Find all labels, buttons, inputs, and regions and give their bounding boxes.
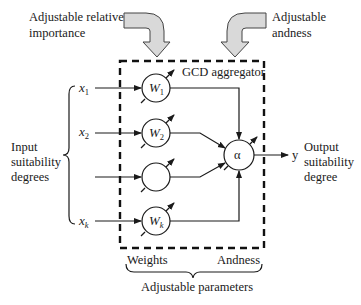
connection-w2: [170, 133, 225, 148]
parameters-label: Adjustable parameters: [141, 280, 253, 294]
input-label-line1: Input: [11, 140, 38, 154]
relative-importance-label-line1: Adjustable relative: [29, 10, 124, 24]
connection-w1: [170, 88, 239, 139]
andness-label-line1: Adjustable: [272, 10, 327, 24]
relative-importance-arrow-icon: [124, 13, 170, 57]
output-var: y: [292, 148, 299, 162]
connection-wk: [170, 171, 239, 221]
input-x2: x2: [78, 124, 89, 141]
connection-w3: [170, 163, 225, 177]
input-x1: x1: [78, 80, 89, 97]
weights-label: Weights: [127, 253, 168, 267]
weight-node-3: [141, 159, 174, 192]
andness-arrow-icon: [221, 13, 266, 57]
aggregator-title: GCD aggregator: [182, 65, 266, 79]
input-brace: [63, 86, 75, 224]
andness-param-label: Andness: [217, 253, 260, 267]
andness-label-line2: andness: [272, 26, 312, 40]
relative-importance-label-line2: importance: [29, 26, 86, 40]
output-label-line2: suitability: [304, 155, 355, 169]
andness-node: α: [224, 137, 257, 170]
input-label-line3: degrees: [11, 170, 49, 184]
weight-node-k: Wk: [141, 203, 174, 236]
output-label-line1: Output: [304, 140, 339, 154]
weight-node-1: W1: [141, 70, 174, 103]
output-label-line3: degree: [304, 170, 338, 184]
input-xk: xk: [78, 213, 89, 230]
input-label-line2: suitability: [11, 155, 62, 169]
weight-node-2: W2: [141, 115, 174, 148]
gcd-aggregator-diagram: Adjustable relative importance Adjustabl…: [0, 0, 361, 305]
alpha-symbol: α: [234, 148, 241, 162]
